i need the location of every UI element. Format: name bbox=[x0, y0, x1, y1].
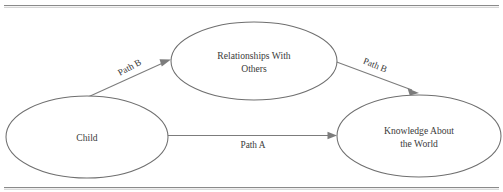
node-knowledge-label-line1: Knowledge About bbox=[384, 125, 454, 136]
node-knowledge-ellipse[interactable] bbox=[337, 95, 501, 177]
edge-path-a bbox=[168, 132, 337, 139]
node-child-label: Child bbox=[76, 132, 98, 143]
diagram-canvas: Child Relationships With Others Knowledg… bbox=[0, 0, 503, 192]
edge-label-path-b-down: Path B bbox=[362, 56, 389, 75]
edge-path-a-arrowhead bbox=[328, 132, 338, 139]
node-relationships-ellipse[interactable] bbox=[171, 22, 337, 100]
edge-label-path-a: Path A bbox=[240, 140, 265, 150]
node-child[interactable]: Child bbox=[6, 96, 168, 178]
node-relationships[interactable]: Relationships With Others bbox=[171, 22, 337, 100]
path-diagram-figure: Child Relationships With Others Knowledg… bbox=[0, 0, 503, 192]
edge-label-path-b-up: Path B bbox=[116, 57, 143, 78]
node-relationships-label-line2: Others bbox=[241, 63, 267, 74]
node-knowledge[interactable]: Knowledge About the World bbox=[337, 95, 501, 177]
node-relationships-label-line1: Relationships With bbox=[217, 50, 290, 61]
edge-path-b-up-arrowhead bbox=[160, 59, 172, 66]
node-knowledge-label-line2: the World bbox=[400, 138, 438, 149]
